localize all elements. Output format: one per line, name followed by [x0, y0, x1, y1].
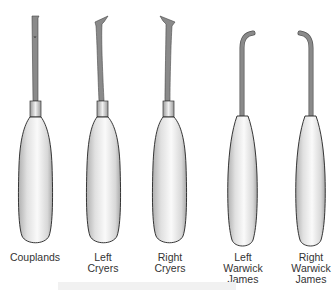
label-line: Cryers	[68, 263, 138, 274]
hook-left-icon	[300, 33, 311, 116]
ferrule	[30, 101, 41, 117]
label-left-warwick-james: Left Warwick James	[208, 252, 278, 285]
label-right-cryers: Right Cryers	[135, 252, 205, 274]
instrument-left-warwick-james	[228, 33, 258, 246]
handle	[296, 116, 326, 246]
label-couplands: Couplands	[0, 252, 70, 263]
label-right-warwick-james: Right Warwick James	[276, 252, 336, 285]
instrument-couplands	[18, 16, 52, 243]
triangular-blade-left-icon	[95, 16, 108, 101]
instrument-left-cryers	[86, 16, 120, 243]
label-line: Couplands	[0, 252, 70, 263]
handle	[228, 116, 258, 246]
label-line: Cryers	[135, 263, 205, 274]
hook-right-icon	[242, 33, 253, 116]
instrument-right-cryers	[152, 16, 186, 243]
caption-bar	[58, 282, 236, 290]
handle	[152, 117, 186, 243]
elevators-illustration	[0, 0, 336, 290]
ferrule	[163, 101, 174, 117]
handle	[18, 117, 52, 243]
triangular-blade-right-icon	[160, 16, 175, 101]
label-left-cryers: Left Cryers	[68, 252, 138, 274]
shaft-straight-icon	[32, 16, 39, 101]
handle	[86, 117, 120, 243]
instrument-right-warwick-james	[296, 33, 326, 246]
ferrule	[97, 101, 108, 117]
label-line: James	[276, 274, 336, 285]
